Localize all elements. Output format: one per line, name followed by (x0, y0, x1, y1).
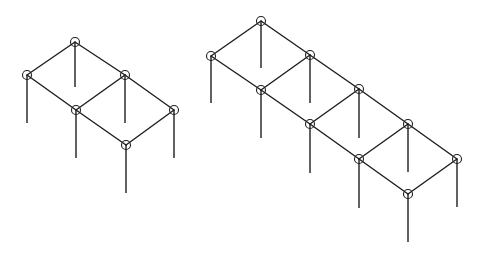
beams (27, 42, 174, 145)
beam-R6-R8 (310, 124, 359, 159)
frame-diagram (0, 0, 484, 256)
structures-layer (23, 17, 462, 243)
beams (211, 21, 457, 194)
beam-L5-L6 (126, 110, 174, 145)
beam-L4-L6 (76, 110, 126, 145)
beam-R1-R3 (261, 21, 310, 55)
beam-R5-R7 (359, 89, 408, 124)
frame-4-bay (207, 17, 462, 243)
beam-R7-R9 (408, 124, 457, 159)
joints (23, 38, 179, 150)
beam-L1-L2 (27, 42, 75, 75)
beam-R2-R4 (211, 56, 261, 90)
frame-2-bay (23, 38, 179, 194)
beam-L3-L5 (125, 75, 174, 110)
beam-L3-L4 (76, 75, 125, 110)
beam-R8-R10 (359, 159, 408, 194)
beam-R4-R6 (261, 90, 310, 124)
beam-R7-R8 (359, 124, 408, 159)
beam-R1-R2 (211, 21, 261, 56)
beam-L2-L4 (27, 75, 76, 110)
beam-R3-R4 (261, 55, 310, 90)
columns (211, 21, 457, 242)
beam-L1-L3 (75, 42, 125, 75)
beam-R5-R6 (310, 89, 359, 124)
beam-R9-R10 (408, 159, 457, 194)
beam-R3-R5 (310, 55, 359, 89)
columns (27, 42, 174, 193)
